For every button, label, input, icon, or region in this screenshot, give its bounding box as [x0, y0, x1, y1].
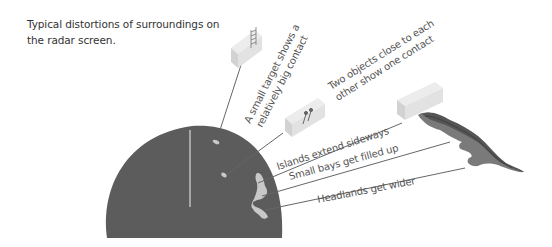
small-target-box [231, 27, 262, 68]
coastline-land [418, 112, 524, 172]
radar-distortion-diagram: A small target shows a relatively big co… [0, 0, 552, 247]
two-objects-box [285, 98, 325, 137]
radar-screen [106, 126, 282, 238]
label-headlands: Headlands get wider [316, 175, 417, 205]
label-two-objects-line-1: Two objects close to each [325, 18, 435, 93]
